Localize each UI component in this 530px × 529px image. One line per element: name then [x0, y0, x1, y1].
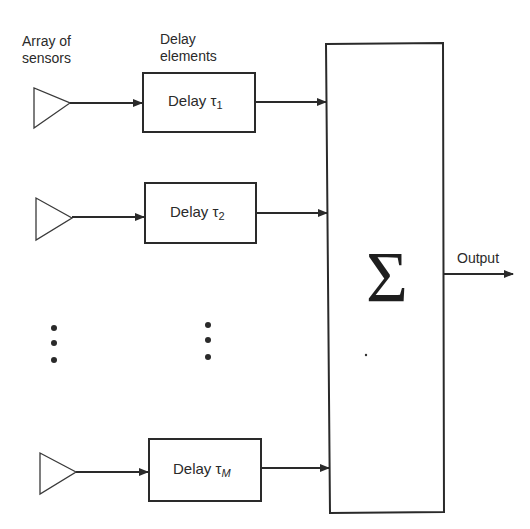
delay-ellipsis-dot [205, 354, 211, 360]
summation-symbol: Σ [366, 241, 408, 313]
print-speck [365, 354, 367, 356]
output-label: Output [457, 250, 499, 267]
delays-header-line2: elements [160, 48, 217, 65]
diagram-lines [0, 0, 530, 529]
sensor-m-icon [40, 453, 76, 494]
sensor-ellipsis-dot [51, 340, 57, 346]
sensor-1-icon [34, 88, 70, 128]
sensor-ellipsis-dot [51, 357, 57, 363]
sensors-header: Array of sensors [22, 33, 71, 67]
sensors-header-line1: Array of [22, 33, 71, 50]
delay-and-sum-diagram: Array of sensors Delay elements Delay τ1… [0, 0, 530, 529]
sensor-2-icon [36, 198, 72, 240]
sensor-ellipsis-dot [51, 325, 57, 331]
delays-header-line1: Delay [160, 31, 217, 48]
delay-1-label: Delay τ1 [168, 92, 223, 111]
delay-2-label: Delay τ2 [170, 203, 225, 222]
delays-header: Delay elements [160, 31, 217, 65]
delay-m-label: Delay τM [173, 460, 231, 479]
sensors-header-line2: sensors [22, 50, 71, 67]
delay-ellipsis-dot [205, 337, 211, 343]
delay-ellipsis-dot [205, 322, 211, 328]
